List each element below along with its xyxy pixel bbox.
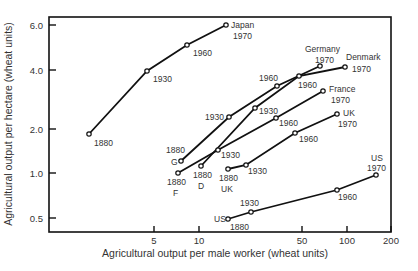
- data-point-marker: [335, 112, 339, 116]
- data-point-marker: [179, 159, 183, 163]
- point-label: 1960: [338, 192, 357, 202]
- point-label: F: [173, 188, 178, 198]
- data-point-marker: [199, 164, 203, 168]
- x-tick-label: 50: [297, 235, 308, 246]
- point-label: 1960: [299, 134, 318, 144]
- point-label: Denmark: [346, 52, 381, 62]
- point-label: 1970: [331, 95, 350, 105]
- x-axis: 51050100200: [151, 226, 399, 246]
- point-label: 1930: [221, 150, 240, 160]
- point-label: 1970: [315, 55, 334, 65]
- point-label: 1970: [233, 31, 252, 41]
- point-label: 1970: [367, 163, 386, 173]
- y-tick-label: 6.0: [30, 20, 43, 31]
- point-label: France: [329, 84, 356, 94]
- data-point-marker: [185, 43, 189, 47]
- data-point-marker: [227, 115, 231, 119]
- point-label: UK: [221, 184, 233, 194]
- y-tick-label: 4.0: [30, 65, 43, 76]
- chart: 51050100200 6.04.02.01.00.5 188019301960…: [0, 0, 418, 271]
- series-germany: 1880G19301960Germany1970: [166, 44, 341, 167]
- y-tick-label: 1.0: [30, 168, 43, 179]
- point-label: G: [171, 157, 178, 167]
- y-axis: 6.04.02.01.00.5: [30, 20, 56, 224]
- point-label: 1880: [193, 170, 212, 180]
- data-point-marker: [226, 217, 230, 221]
- point-label: 1930: [248, 166, 267, 176]
- y-axis-label: Agricultural output per hectare (wheat u…: [2, 22, 14, 226]
- data-point-marker: [224, 23, 228, 27]
- point-label: 1960: [298, 80, 317, 90]
- point-label: 1880: [94, 138, 113, 148]
- data-point-marker: [253, 106, 257, 110]
- series-japan: 188019301960Japan1970: [87, 20, 255, 148]
- x-tick-label: 100: [339, 235, 355, 246]
- point-label: US: [214, 214, 226, 224]
- point-label: 1880: [219, 173, 238, 183]
- data-point-marker: [226, 167, 230, 171]
- y-tick-label: 2.0: [30, 124, 43, 135]
- data-point-marker: [293, 131, 297, 135]
- point-label: 1930: [259, 106, 278, 116]
- point-label: 1930: [205, 112, 224, 122]
- data-point-marker: [176, 171, 180, 175]
- point-label: 1880: [166, 145, 185, 155]
- data-point-marker: [297, 74, 301, 78]
- point-label: 1930: [240, 198, 259, 208]
- point-label: 1880: [167, 177, 186, 187]
- x-tick-label: 5: [151, 235, 156, 246]
- data-point-marker: [87, 132, 91, 136]
- data-point-marker: [249, 210, 253, 214]
- point-label: D: [198, 181, 204, 191]
- data-point-marker: [374, 173, 378, 177]
- point-label: 1930: [153, 74, 172, 84]
- data-point-marker: [343, 65, 347, 69]
- chart-canvas: 51050100200 6.04.02.01.00.5 188019301960…: [0, 0, 418, 271]
- point-label: UK: [343, 108, 355, 118]
- data-point-marker: [275, 84, 279, 88]
- data-point-marker: [274, 116, 278, 120]
- point-label: 1970: [352, 64, 371, 74]
- point-label: 1960: [193, 48, 212, 58]
- x-axis-label: Agricultural output per male worker (whe…: [102, 247, 328, 259]
- y-tick-label: 0.5: [30, 213, 43, 224]
- point-label: Japan: [231, 20, 254, 30]
- x-tick-label: 10: [194, 235, 205, 246]
- point-label: US: [371, 153, 383, 163]
- point-label: 1880: [230, 222, 249, 232]
- data-point-marker: [145, 69, 149, 73]
- x-tick-label: 200: [383, 235, 399, 246]
- point-label: 1970: [338, 119, 357, 129]
- point-label: 1960: [279, 118, 298, 128]
- point-label: Germany: [305, 44, 341, 54]
- point-label: 1960: [259, 73, 278, 83]
- data-point-marker: [321, 89, 325, 93]
- series-layer: 188019301960Japan19701880G19301960German…: [87, 20, 386, 232]
- data-point-marker: [216, 148, 220, 152]
- series-us: US188019301960US1970: [214, 153, 386, 232]
- series-france: 1880F19301960France1970: [167, 84, 356, 198]
